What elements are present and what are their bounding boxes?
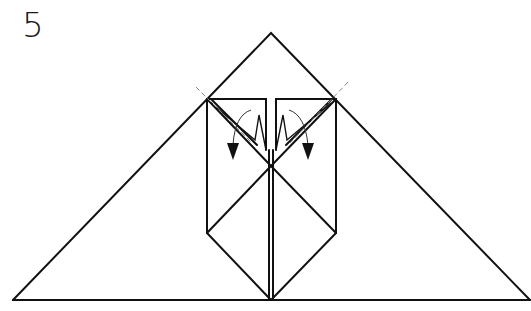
arrow-head-icon	[302, 143, 314, 160]
origami-diagram	[0, 0, 531, 311]
right-fold-line	[290, 82, 348, 143]
right-flap	[276, 99, 336, 150]
arrow-head-icon	[227, 143, 239, 160]
inner-body	[207, 99, 336, 300]
